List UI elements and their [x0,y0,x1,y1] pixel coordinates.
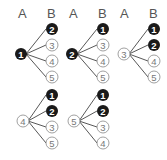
branch-line [26,45,46,54]
child-node: 2 [97,105,109,117]
child-node: 2 [46,23,58,35]
root-node: 4 [17,115,29,127]
node-label: 5 [71,116,76,127]
node-label: 1 [100,90,106,101]
node-label: 4 [20,116,25,127]
node-label: 2 [69,49,74,60]
node-label: 5 [49,138,54,149]
node-label: 1 [100,24,106,35]
child-node: 4 [148,55,160,67]
node-label: 4 [151,56,156,67]
child-node: 2 [148,39,160,51]
node-label: 5 [151,72,156,83]
root-node: 1 [15,48,27,60]
node-label: 3 [100,40,105,51]
child-node: 5 [97,71,109,83]
node-label: 5 [49,72,54,83]
branch-line [77,29,97,54]
node-label: 1 [151,24,157,35]
child-node: 1 [97,23,109,35]
tree-canvas: 1234521345312454123551234 [0,0,167,160]
branch-line [79,111,97,121]
branch-line [129,29,148,54]
branch-line [77,45,97,54]
branch-line [28,95,46,121]
node-label: 5 [100,72,105,83]
branch-line [26,29,46,54]
node-label: 4 [100,138,105,149]
node-label: 4 [49,56,54,67]
child-node: 1 [97,89,109,101]
node-label: 1 [49,90,55,101]
node-label: 2 [49,106,54,117]
root-node: 5 [68,115,80,127]
branch-line [129,45,148,54]
node-label: 1 [18,49,24,60]
root-node: 2 [66,48,78,60]
node-label: 4 [100,56,105,67]
child-node: 2 [46,105,58,117]
node-label: 3 [49,40,54,51]
node-label: 2 [151,40,156,51]
child-node: 1 [148,23,160,35]
node-label: 3 [49,122,54,133]
child-node: 3 [97,121,109,133]
child-node: 4 [46,55,58,67]
child-node: 4 [97,55,109,67]
node-label: 3 [121,49,126,60]
child-node: 4 [97,137,109,149]
branch-line [79,95,97,121]
node-label: 3 [100,122,105,133]
child-node: 3 [46,39,58,51]
node-label: 2 [100,106,105,117]
child-node: 1 [46,89,58,101]
node-label: 2 [49,24,54,35]
child-node: 5 [148,71,160,83]
child-node: 3 [46,121,58,133]
branch-line [28,111,46,121]
child-node: 5 [46,137,58,149]
root-node: 3 [118,48,130,60]
child-node: 3 [97,39,109,51]
child-node: 5 [46,71,58,83]
